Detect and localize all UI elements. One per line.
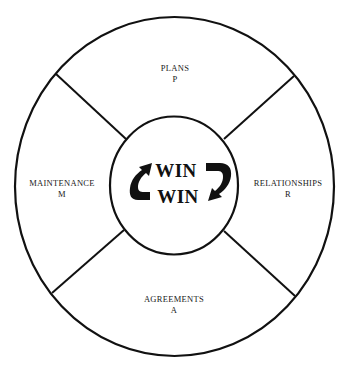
segment-title: AGREEMENTS <box>144 294 204 305</box>
segment-letter: R <box>254 189 323 200</box>
segment-title: RELATIONSHIPS <box>254 178 323 189</box>
segment-maintenance: MAINTENANCE M <box>29 178 95 200</box>
curved-arrow-up-left-icon <box>130 163 152 200</box>
segment-title: MAINTENANCE <box>29 178 95 189</box>
segment-agreements: AGREEMENTS A <box>144 294 204 316</box>
segment-relationships: RELATIONSHIPS R <box>254 178 323 200</box>
center-win-bottom: WIN <box>157 187 199 206</box>
divider-upper-left <box>56 74 126 139</box>
curved-arrow-down-right-icon <box>206 163 231 201</box>
segment-plans: PLANS P <box>161 63 189 85</box>
divider-lower-right <box>224 231 295 296</box>
segment-letter: A <box>144 305 204 316</box>
divider-lower-left <box>52 230 124 293</box>
divider-upper-right <box>224 76 294 139</box>
segment-title: PLANS <box>161 63 189 74</box>
center-win-top: WIN <box>155 161 197 180</box>
segment-letter: M <box>29 189 95 200</box>
segment-letter: P <box>161 74 189 85</box>
